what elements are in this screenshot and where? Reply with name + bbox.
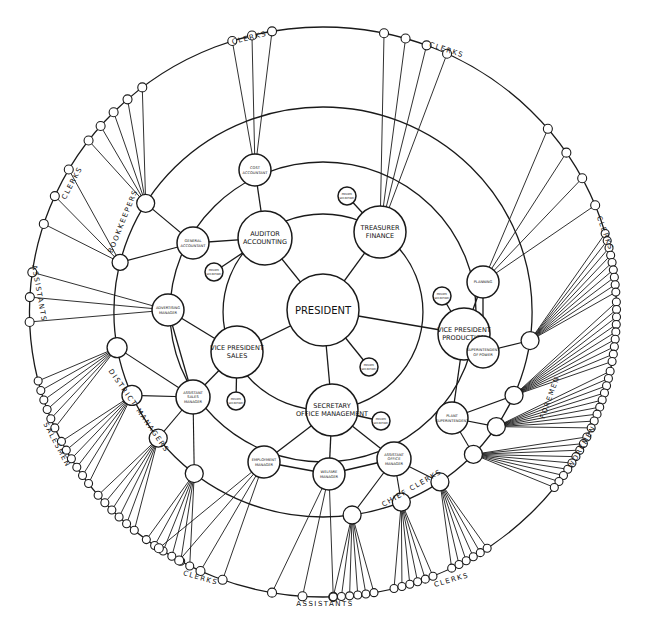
intermediate-node <box>107 338 127 358</box>
leaf-node <box>346 592 354 600</box>
leaf-node <box>483 544 491 552</box>
leaf-node <box>109 108 118 117</box>
leaf-node <box>115 513 123 521</box>
leaf-node <box>421 575 429 583</box>
leaf-node <box>591 201 600 210</box>
leaf-node <box>25 293 34 302</box>
superintendent-of-power-label: SUPERINTENDENT <box>467 348 500 352</box>
leaf-node <box>138 83 147 92</box>
vp-production-label: VICE PRESIDENT <box>437 326 491 334</box>
assistant-office-manager-label: ASSISTANT <box>384 453 404 457</box>
leaf-node <box>130 526 138 534</box>
intermediate-node <box>137 194 155 212</box>
auditor-label: ACCOUNTING <box>243 238 287 246</box>
leaf-node <box>154 544 163 553</box>
leaf-node <box>613 306 621 314</box>
leaf-node <box>612 298 620 306</box>
cost-accountant-label: ACCOUNTANT <box>243 171 269 175</box>
employment-manager-label: EMPLOYMENT <box>252 458 277 462</box>
vp-sales-label: VICE PRESIDENT <box>210 344 264 352</box>
leaf-node <box>448 564 456 572</box>
intermediate-node <box>521 332 539 350</box>
leaf-node <box>578 174 587 183</box>
leaf-node <box>610 343 618 351</box>
general-accountant-label: GENERAL <box>185 239 202 243</box>
leaf-node <box>380 29 389 38</box>
intermediate-node <box>343 506 361 524</box>
leaf-node <box>73 463 81 471</box>
leaf-node <box>50 192 59 201</box>
assistant-sales-manager-label: ASSISTANT <box>183 391 203 395</box>
employment-manager-label: MANAGER <box>255 463 274 467</box>
leaf-node <box>142 536 150 544</box>
leaf-node <box>79 471 87 479</box>
leaf-node <box>64 165 73 174</box>
leaf-node <box>610 273 618 281</box>
leaf-node <box>43 405 51 413</box>
leaf-node <box>414 578 422 586</box>
auditor-label: AUDITOR <box>250 230 280 238</box>
assistant-sales-manager-label: MANAGER <box>184 400 203 404</box>
intermediate-node <box>464 445 482 463</box>
leaf-node <box>25 317 34 326</box>
treasurer-label: TREASURER <box>359 224 400 232</box>
district-managers-label: DISTRICT MANAGERS <box>107 368 171 454</box>
leaf-node <box>613 313 621 321</box>
leaf-node <box>39 219 48 228</box>
intermediate-node <box>487 418 505 436</box>
intermediate-node <box>112 254 128 270</box>
leaf-node <box>562 148 571 157</box>
ps-vp-sales-label: SECRETARY <box>229 402 244 405</box>
leaf-node <box>186 562 194 570</box>
leaf-node <box>37 387 45 395</box>
ps-auditor-label: SECRETARY <box>207 273 222 276</box>
planning-label: PLANNING <box>474 280 493 284</box>
leaf-node <box>401 34 410 43</box>
ps-treasurer-label: SECRETARY <box>340 197 355 200</box>
leaf-node <box>123 95 132 104</box>
general-accountant-label: ACCOUNTANT <box>181 244 207 248</box>
leaf-node <box>175 556 184 565</box>
leaf-node <box>607 251 615 259</box>
ps-vp-production-label: SECRETARY <box>435 297 450 300</box>
intermediate-node <box>185 465 203 483</box>
secretary-label: SECRETARY <box>313 402 350 410</box>
leaf-node <box>101 499 109 507</box>
leaf-node <box>96 121 105 130</box>
vp-sales-label: SALES <box>227 352 248 360</box>
leaf-node <box>612 328 620 336</box>
workmen-label: WORKMEN <box>567 424 598 470</box>
leaf-node <box>606 367 614 375</box>
plant-superintendent-label: SUPERINTENDENT <box>436 419 469 423</box>
leaf-node <box>84 136 93 145</box>
leaf-node <box>608 259 616 267</box>
secretary-label: OFFICE MANAGEMENT <box>296 410 368 418</box>
cost-accountant-label: COST <box>250 166 261 170</box>
org-chart-diagram: PRESIDENTAUDITORACCOUNTINGTREASURERFINAN… <box>0 0 645 637</box>
leaf-node <box>429 572 437 580</box>
intermediate-node <box>505 386 523 404</box>
leaf-node <box>40 396 48 404</box>
ps-president-label: SECRETARY <box>362 368 377 371</box>
leaf-node <box>108 506 116 514</box>
leaf-node <box>612 320 620 328</box>
superintendent-of-power-label: OF POWER <box>473 353 493 357</box>
welfare-manager-label: WELFARE <box>321 470 339 474</box>
org-chart-canvas: PRESIDENTAUDITORACCOUNTINGTREASURERFINAN… <box>0 0 645 637</box>
welfare-manager-label: MANAGER <box>320 475 339 479</box>
bookkeepers-label: BOOKKEEPERS <box>107 188 140 254</box>
leaf-node <box>543 124 552 133</box>
plant-superintendent-label: PLANT <box>446 414 458 418</box>
leaf-node <box>85 480 93 488</box>
leaf-node <box>406 580 414 588</box>
assistant-office-manager-label: MANAGER <box>385 462 404 466</box>
ps-secretary-label: SECRETARY <box>374 422 389 425</box>
leaf-node <box>123 520 131 528</box>
leaf-node <box>370 589 378 597</box>
treasurer-label: FINANCE <box>366 232 394 240</box>
leaf-node <box>611 281 619 289</box>
leaf-node <box>608 357 616 365</box>
leaf-node <box>354 591 362 599</box>
leaf-node <box>609 350 617 358</box>
leaf-node <box>390 585 398 593</box>
